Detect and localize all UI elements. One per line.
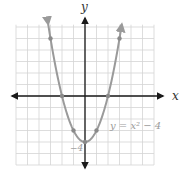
data-point xyxy=(48,36,52,40)
parabola-graph: x y y = x² − 4 −4 xyxy=(0,0,180,172)
data-point xyxy=(94,128,98,132)
equation-label: y = x² − 4 xyxy=(109,120,161,131)
data-point xyxy=(83,140,87,144)
x-axis-label: x xyxy=(172,89,179,103)
axes xyxy=(12,18,163,168)
vertex-value-label: −4 xyxy=(70,143,84,153)
y-axis-label: y xyxy=(80,0,88,14)
data-point xyxy=(71,128,75,132)
data-point xyxy=(106,94,110,98)
data-point xyxy=(117,36,121,40)
data-point xyxy=(60,94,64,98)
